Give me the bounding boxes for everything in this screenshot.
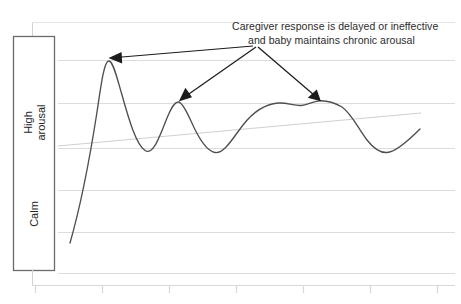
arrowhead-first-peak	[110, 53, 122, 63]
arousal-curve	[70, 61, 420, 243]
figure-canvas: Caregiver response is delayed or ineffec…	[0, 0, 461, 304]
annotation-text-line-2: and baby maintains chronic arousal	[248, 33, 415, 47]
annotation-arrow-to-second-peak	[186, 47, 256, 96]
annotation-text-line-1: Caregiver response is delayed or ineffec…	[232, 19, 438, 33]
x-axis-ticks	[36, 285, 438, 293]
annotation-arrows	[110, 46, 320, 101]
y-axis-label-box	[14, 37, 55, 271]
annotation-arrow-to-plateau	[258, 47, 314, 95]
y-axis-label-arousal: arousal	[34, 104, 47, 140]
gridlines	[58, 61, 455, 274]
annotation-arrow-to-first-peak	[116, 46, 253, 58]
y-axis-label-high: High	[22, 104, 35, 140]
y-axis-label-calm-text: Calm	[28, 201, 40, 227]
arrowhead-second-peak	[180, 89, 191, 101]
